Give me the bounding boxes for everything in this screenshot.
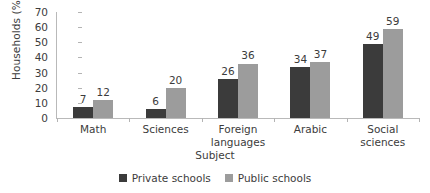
bar-value-label: 6 [144,96,168,107]
legend-label: Public schools [238,172,312,184]
x-axis-tick-mark [274,118,275,122]
x-axis-category-label-line: Math [51,123,135,136]
y-axis-tick-labels: 010203040506070 [26,8,52,120]
x-axis-tick-mark [202,118,203,122]
bar-value-label: 49 [361,31,385,42]
legend-label: Private schools [132,172,211,184]
y-axis-tick-label: 10 [35,98,48,108]
x-axis-category-label-line: Social [341,123,425,136]
x-axis-category-label: Sciences [124,123,208,136]
bar-value-label: 26 [216,66,240,77]
x-axis-tick-mark [347,118,348,122]
x-axis-category-label: Arabic [268,123,352,136]
bar-value-label: 12 [91,87,115,98]
x-axis-title: Subject [0,149,430,161]
legend-swatch-icon [119,174,127,182]
bar [363,44,383,118]
x-axis-category-label-line: Sciences [124,123,208,136]
bar-group [347,12,419,118]
bar-value-label: 59 [381,16,405,27]
bar [383,29,403,118]
bar [238,64,258,119]
bar [166,88,186,118]
legend-item[interactable]: Public schools [225,172,312,184]
y-axis-tick-label: 40 [35,52,48,62]
x-axis-tick-mark [419,118,420,122]
bar [310,62,330,118]
y-axis-tick-label: 60 [35,22,48,32]
x-axis-category-label: Foreignlanguages [196,123,280,148]
bar-group [274,12,346,118]
y-axis-tick-label: 0 [41,113,48,123]
y-axis-tick-label: 70 [35,7,48,17]
x-axis-line [56,118,419,119]
bar [218,79,238,118]
y-axis-title: Households (%) [10,0,22,98]
bar [93,100,113,118]
bar-value-label: 20 [164,75,188,86]
bar-value-label: 37 [308,49,332,60]
x-axis-category-label-line: Arabic [268,123,352,136]
x-axis-category-label-line: Foreign [196,123,280,136]
bar-pair [347,12,419,118]
bar-chart: Households (%) 010203040506070 Subject P… [0,0,430,193]
bar [146,109,166,118]
x-axis-tick-mark [57,118,58,122]
bar-pair [274,12,346,118]
x-axis-category-label-line: languages [196,136,280,149]
y-axis-tick-label: 50 [35,37,48,47]
y-axis-tick-label: 20 [35,83,48,93]
bar [73,107,93,118]
y-axis-tick-label: 30 [35,68,48,78]
chart-legend: Private schoolsPublic schools [0,172,430,184]
legend-swatch-icon [225,174,233,182]
x-axis-category-label: Math [51,123,135,136]
bar [290,67,310,118]
x-axis-category-label-line: sciences [341,136,425,149]
legend-item[interactable]: Private schools [119,172,211,184]
x-axis-tick-mark [129,118,130,122]
bar-value-label: 36 [236,50,260,61]
x-axis-category-label: Socialsciences [341,123,425,148]
